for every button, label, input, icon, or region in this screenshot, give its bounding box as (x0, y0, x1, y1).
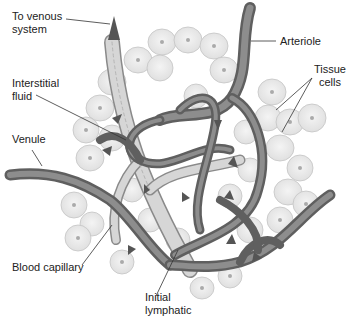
label-to-venous-system: To venous system (12, 10, 62, 36)
label-line: To venous (12, 10, 62, 23)
label-line: Initial (145, 291, 191, 304)
label-initial-lymphatic: Initial lymphatic (145, 291, 191, 317)
label-line: system (12, 23, 62, 36)
tissue-cells (61, 27, 326, 299)
label-line: cells (314, 76, 346, 89)
lymphatic-diagram: To venous system Arteriole Interstitial … (0, 0, 358, 319)
label-arteriole: Arteriole (280, 35, 321, 48)
label-line: Tissue (314, 63, 346, 76)
label-line: fluid (12, 90, 59, 103)
label-line: Interstitial (12, 77, 59, 90)
label-venule: Venule (12, 133, 46, 146)
label-line: lymphatic (145, 304, 191, 317)
label-interstitial-fluid: Interstitial fluid (12, 77, 59, 103)
label-tissue-cells: Tissue cells (314, 63, 346, 89)
label-blood-capillary: Blood capillary (12, 261, 84, 274)
